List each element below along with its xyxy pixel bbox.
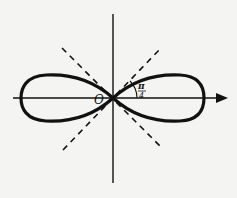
origin-label: O: [94, 93, 104, 107]
angle-label-denominator: 4: [138, 91, 144, 100]
x-axis-arrowhead-icon: [216, 93, 228, 103]
angle-label-numerator: π: [137, 81, 145, 91]
lemniscate-diagram: O π 4: [0, 0, 237, 198]
